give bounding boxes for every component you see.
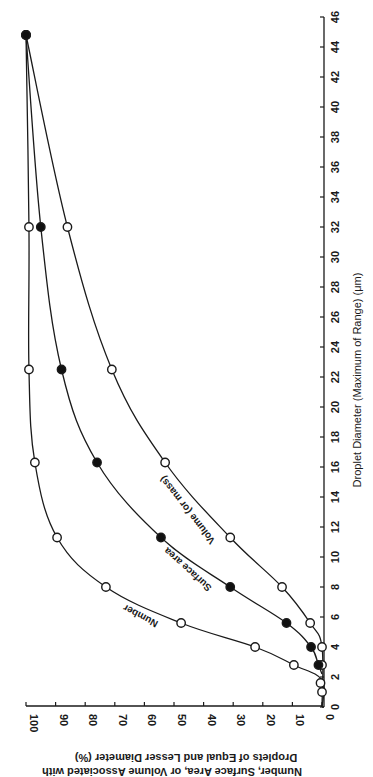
diameter-tick-label: 10 xyxy=(329,551,341,563)
filled-circle-marker xyxy=(226,583,234,591)
percent-tick-label: 100 xyxy=(28,714,40,732)
filled-circle-marker xyxy=(282,619,290,627)
y-axis-title-line1: Number, Surface Area, or Volume Associat… xyxy=(42,766,302,777)
diameter-tick-label: 38 xyxy=(329,131,341,143)
percent-tick-label: 40 xyxy=(206,714,218,726)
percent-tick-label: 50 xyxy=(176,714,188,726)
x-axis-title: Droplet Diameter (Maximum of Range) (μm) xyxy=(351,273,363,488)
diameter-tick-label: 34 xyxy=(329,190,341,203)
percent-tick-label: 80 xyxy=(87,714,99,726)
diameter-tick-label: 32 xyxy=(329,221,341,233)
diameter-tick-label: 30 xyxy=(329,251,341,263)
diameter-tick-label: 42 xyxy=(329,71,341,83)
diameter-tick-label: 8 xyxy=(329,584,341,590)
open-circle-marker xyxy=(318,688,326,696)
percent-tick-label: 90 xyxy=(58,714,70,726)
open-circle-marker xyxy=(251,643,259,651)
diameter-tick-label: 44 xyxy=(329,40,341,53)
y-axis-title-line2: Droplets of Equal and Lesser Diameter (%… xyxy=(74,752,297,764)
curves xyxy=(26,35,324,707)
open-circle-marker xyxy=(25,365,33,373)
percent-tick-label: 0 xyxy=(324,714,336,720)
open-circle-marker xyxy=(306,619,314,627)
open-circle-marker xyxy=(290,661,298,669)
diameter-tick-label: 46 xyxy=(329,11,341,23)
diameter-tick-label: 36 xyxy=(329,161,341,173)
percent-axis: 0102030405060708090100 xyxy=(26,702,336,732)
open-circle-marker xyxy=(161,458,169,466)
diameter-tick-label: 28 xyxy=(329,281,341,293)
filled-circle-marker xyxy=(307,643,315,651)
diameter-tick-label: 0 xyxy=(329,704,341,710)
diameter-tick-label: 22 xyxy=(329,371,341,383)
filled-circle-marker xyxy=(93,458,101,466)
filled-circle-marker xyxy=(314,661,322,669)
open-circle-marker xyxy=(316,679,324,687)
open-circle-marker xyxy=(108,365,116,373)
open-circle-marker xyxy=(31,458,39,466)
open-circle-marker xyxy=(63,223,71,231)
curve-surface-area xyxy=(26,35,322,674)
open-circle-marker xyxy=(25,223,33,231)
diameter-tick-label: 18 xyxy=(329,431,341,443)
filled-circle-marker xyxy=(157,533,165,541)
diameter-tick-label: 20 xyxy=(329,401,341,413)
filled-circle-marker xyxy=(57,365,65,373)
diameter-tick-label: 6 xyxy=(329,614,341,620)
curve-number xyxy=(26,35,324,707)
diameter-tick-label: 2 xyxy=(329,674,341,680)
diameter-tick-label: 24 xyxy=(329,340,341,353)
filled-circle-marker xyxy=(22,31,30,39)
open-circle-marker xyxy=(102,583,110,591)
percent-tick-label: 30 xyxy=(235,714,247,726)
filled-circle-marker xyxy=(37,223,45,231)
percent-tick-label: 70 xyxy=(117,714,129,726)
open-circle-marker xyxy=(177,619,185,627)
diameter-tick-label: 40 xyxy=(329,101,341,113)
open-circle-marker xyxy=(318,643,326,651)
open-circle-marker xyxy=(53,533,61,541)
diameter-tick-label: 4 xyxy=(329,643,341,650)
percent-tick-label: 20 xyxy=(265,714,277,726)
diameter-tick-label: 14 xyxy=(329,490,341,503)
curve-label-surface-area: Surface area xyxy=(161,545,213,594)
open-circle-marker xyxy=(226,533,234,541)
curve-volume-or-mass xyxy=(26,35,323,707)
open-circle-marker xyxy=(278,583,286,591)
curve-label-volume: Volume (or mass) xyxy=(157,474,217,546)
diameter-tick-label: 16 xyxy=(329,461,341,473)
percent-tick-label: 10 xyxy=(294,714,306,726)
droplet-distribution-chart: 0102030405060708090100 02468101214161820… xyxy=(0,0,373,777)
diameter-axis: 0246810121416182022242628303234363840424… xyxy=(320,11,341,710)
diameter-tick-label: 12 xyxy=(329,521,341,533)
data-markers xyxy=(22,31,326,696)
percent-tick-label: 60 xyxy=(146,714,158,726)
diameter-tick-label: 26 xyxy=(329,311,341,323)
